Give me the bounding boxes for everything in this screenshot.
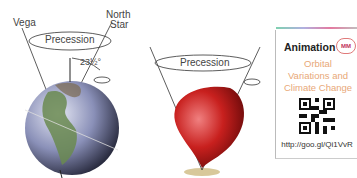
qr-code-icon[interactable] (299, 98, 335, 134)
tilt-angle-label: 23½° (80, 57, 101, 67)
spinning-top-diagram: Precession (140, 0, 270, 178)
spinning-top-icon (140, 0, 270, 178)
precession-label: Precession (45, 35, 94, 45)
animation-title: Animation (284, 41, 335, 53)
animation-subtitle: Orbital Variations and Climate Change (278, 58, 357, 94)
subtitle-line-2: Variations and (278, 70, 357, 82)
top-precession-label: Precession (180, 58, 229, 68)
subtitle-line-1: Orbital (278, 58, 357, 70)
earth-precession-diagram: Vega North Star Precession 23½° (0, 0, 140, 178)
animation-url-link[interactable]: http://goo.gl/Qi1VvR (276, 140, 357, 149)
card-accent-bar (276, 27, 357, 29)
vega-label: Vega (13, 18, 36, 28)
mm-badge-icon: MM (336, 38, 356, 54)
north-star-label-2: Star (110, 20, 128, 30)
animation-card[interactable]: Animation MM Orbital Variations and Clim… (275, 30, 357, 159)
subtitle-line-3: Climate Change (278, 82, 357, 94)
